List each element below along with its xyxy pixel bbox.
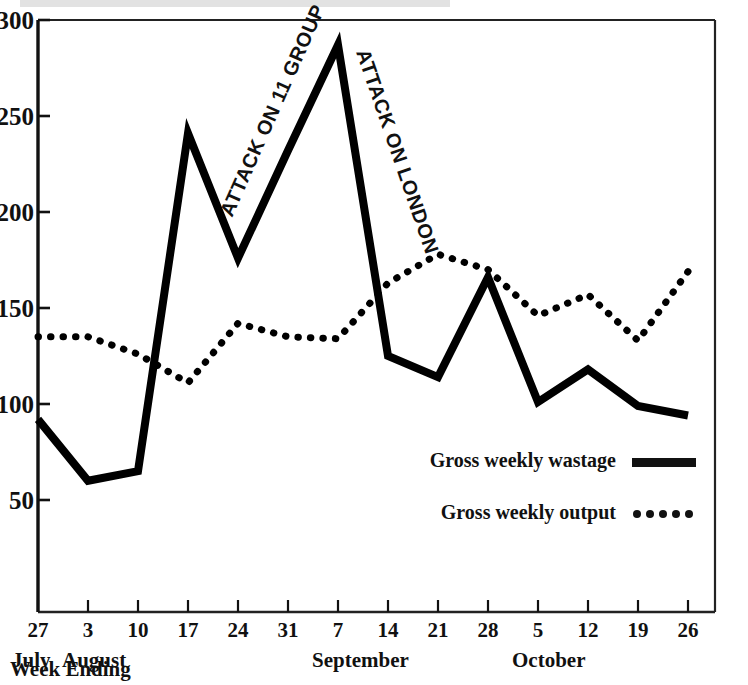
chart-container: 300 250 200 150 100 50 ATTACK ON 11 GROU… (0, 0, 748, 685)
y-tick-label-300: 300 (0, 7, 34, 34)
x-axis-labels: 2731017243171421285121926 (28, 618, 699, 642)
legend-label-output: Gross weekly output (441, 501, 617, 524)
month-label-3: October (512, 648, 585, 672)
series-gross-weekly-output (38, 254, 688, 383)
x-tick-label-2: 10 (128, 618, 149, 642)
x-tick-label-11: 12 (578, 618, 599, 642)
solid-line-swatch (632, 458, 696, 467)
y-tick-label-200: 200 (0, 199, 34, 226)
line-chart: 300 250 200 150 100 50 ATTACK ON 11 GROU… (0, 0, 748, 685)
x-tick-label-12: 19 (628, 618, 649, 642)
y-tick-label-250: 250 (0, 103, 34, 130)
output-line (38, 254, 688, 383)
x-tick-label-3: 17 (178, 618, 199, 642)
month-label-2: September (312, 648, 409, 672)
x-tick-label-6: 7 (333, 618, 344, 642)
x-tick-label-4: 24 (228, 618, 250, 642)
y-axis-labels: 300 250 200 150 100 50 (0, 7, 34, 514)
x-tick-label-8: 21 (428, 618, 449, 642)
x-axis-caption: Week Ending (10, 657, 131, 681)
x-tick-label-7: 14 (378, 618, 400, 642)
y-tick-label-100: 100 (0, 391, 34, 418)
cropped-title-remnant (20, 0, 450, 7)
x-tick-label-13: 26 (678, 618, 699, 642)
x-tick-label-1: 3 (83, 618, 94, 642)
series-gross-weekly-wastage (38, 45, 688, 481)
x-tick-label-5: 31 (278, 618, 299, 642)
dotted-line-swatch (633, 510, 693, 518)
x-tick-label-10: 5 (533, 618, 544, 642)
chart-legend: Gross weekly wastage Gross weekly output (430, 449, 696, 524)
y-tick-label-50: 50 (9, 487, 34, 514)
legend-label-wastage: Gross weekly wastage (430, 449, 616, 472)
x-tick-label-0: 27 (28, 618, 49, 642)
x-axis-ticks (38, 600, 688, 612)
wastage-line (38, 45, 688, 481)
x-tick-label-9: 28 (478, 618, 499, 642)
y-tick-label-150: 150 (0, 295, 34, 322)
